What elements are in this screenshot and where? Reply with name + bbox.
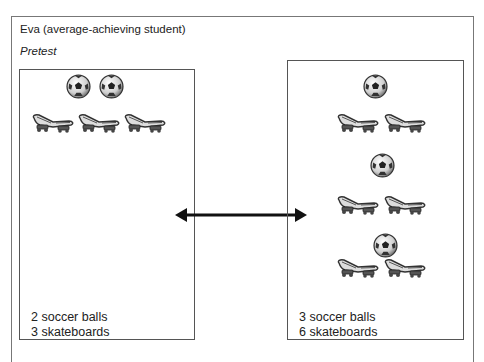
skateboard-count: 3 skateboards [31, 325, 110, 340]
skateboard-icon [336, 258, 380, 278]
student-title: Eva (average-achieving student) [20, 23, 186, 35]
soccer-ball-count: 3 soccer balls [299, 310, 378, 325]
right-panel-summary: 3 soccer balls 6 skateboards [299, 310, 378, 340]
skateboard-icon [383, 113, 427, 133]
soccer-ball-icon [373, 233, 398, 258]
left-panel: 2 soccer balls 3 skateboards [19, 69, 195, 340]
skateboard-count: 6 skateboards [299, 325, 378, 340]
skateboard-icon [383, 258, 427, 278]
left-panel-summary: 2 soccer balls 3 skateboards [31, 310, 110, 340]
soccer-ball-count: 2 soccer balls [31, 310, 110, 325]
soccer-ball-icon [99, 74, 124, 99]
pretest-label: Pretest [20, 45, 56, 57]
soccer-ball-icon [363, 74, 388, 99]
skateboard-icon [31, 113, 75, 133]
soccer-ball-icon [370, 153, 395, 178]
soccer-ball-icon [66, 74, 91, 99]
skateboard-icon [383, 195, 427, 215]
skateboard-icon [77, 113, 121, 133]
skateboard-icon [123, 113, 167, 133]
skateboard-icon [336, 195, 380, 215]
skateboard-icon [336, 113, 380, 133]
right-panel: 3 soccer balls 6 skateboards [287, 60, 464, 340]
